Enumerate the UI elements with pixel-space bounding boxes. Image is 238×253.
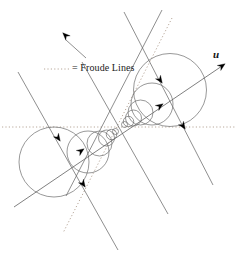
stray-arrow-top-left	[63, 33, 70, 40]
legend-label: = Froude Lines	[72, 62, 135, 73]
wave-circle-right-4	[131, 83, 173, 125]
froude-lines-figure: = Froude Lines u	[0, 0, 238, 253]
solid-ray-3	[66, 10, 162, 196]
main-axis-line	[14, 66, 222, 207]
froude-line-upper-right	[63, 18, 172, 233]
main-axis-group	[14, 66, 222, 207]
solid-rays-group	[18, 10, 213, 250]
solid-ray-2	[124, 12, 213, 185]
arrow-u-axis-tip	[217, 64, 225, 71]
diagram-canvas	[0, 0, 238, 253]
arrow-right-outer	[155, 75, 162, 83]
arrow-left-upper	[53, 133, 60, 141]
wave-circles-group	[19, 54, 207, 198]
froude-lines-group	[2, 18, 236, 233]
arrow-left-axis	[76, 149, 84, 156]
solid-ray-1	[82, 62, 168, 214]
wave-circle-right-5	[134, 54, 207, 127]
arrow-right-lower	[178, 121, 185, 129]
axis-label-u: u	[213, 48, 219, 60]
stray-arrow-tail	[66, 40, 86, 58]
wave-circle-left-5	[19, 127, 89, 197]
